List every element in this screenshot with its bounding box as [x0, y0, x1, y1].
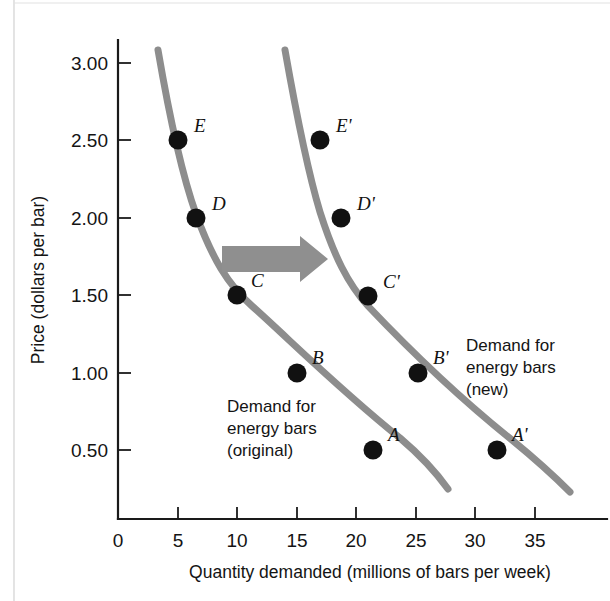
data-point-label-A: A	[386, 424, 400, 445]
x-tick-label-25: 25	[405, 530, 426, 551]
y-tick-label-2.50: 2.50	[71, 130, 108, 151]
data-point-B-prime	[409, 364, 428, 383]
y-tick-label-1.50: 1.50	[71, 285, 108, 306]
x-tick-label-0: 0	[113, 530, 124, 551]
data-point-label-D: D	[211, 193, 226, 214]
annotation-original-line2: energy bars	[227, 419, 317, 438]
y-tick-label-0.50: 0.50	[71, 440, 108, 461]
data-point-label-E-prime: E'	[335, 115, 353, 136]
annotation-new-line3: (new)	[466, 380, 509, 399]
data-point-A-prime	[488, 441, 507, 460]
chart-canvas: 3.00 2.50 2.00 1.50 1.00 0.50 0 5 10 15 …	[0, 0, 610, 601]
y-axis-title: Price (dollars per bar)	[28, 196, 48, 364]
data-point-D	[187, 209, 206, 228]
data-points-new: E' D' C' B' A'	[311, 115, 529, 460]
data-point-D-prime	[332, 209, 351, 228]
y-axis-ticks: 3.00 2.50 2.00 1.50 1.00 0.50	[71, 53, 131, 461]
annotation-demand-original: Demand for energy bars (original)	[227, 397, 317, 460]
annotation-new-line1: Demand for	[466, 336, 555, 355]
annotation-new-line2: energy bars	[466, 358, 556, 377]
shift-arrow-icon	[222, 236, 328, 282]
data-point-label-C: C	[251, 270, 264, 291]
data-point-label-B: B	[312, 347, 324, 368]
annotation-original-line1: Demand for	[227, 397, 316, 416]
data-point-C-prime	[359, 287, 378, 306]
y-tick-label-1.00: 1.00	[71, 363, 108, 384]
annotation-original-line3: (original)	[227, 441, 293, 460]
x-tick-label-10: 10	[226, 530, 247, 551]
annotation-demand-new: Demand for energy bars (new)	[466, 336, 556, 399]
data-point-E	[169, 131, 188, 150]
data-point-label-C-prime: C'	[383, 271, 401, 292]
data-point-label-E: E	[193, 115, 206, 136]
x-axis-ticks: 0 5 10 15 20 25 30 35	[113, 507, 546, 551]
data-point-label-B-prime: B'	[433, 347, 450, 368]
x-tick-label-30: 30	[464, 530, 485, 551]
x-tick-label-15: 15	[286, 530, 307, 551]
data-point-label-A-prime: A'	[510, 424, 529, 445]
y-tick-label-2.00: 2.00	[71, 208, 108, 229]
data-point-label-D-prime: D'	[356, 193, 376, 214]
axes	[118, 40, 607, 519]
data-point-E-prime	[311, 131, 330, 150]
x-tick-label-35: 35	[524, 530, 545, 551]
x-tick-label-20: 20	[345, 530, 366, 551]
x-tick-label-5: 5	[173, 530, 184, 551]
data-point-B	[288, 364, 307, 383]
x-axis-title: Quantity demanded (millions of bars per …	[189, 562, 551, 582]
demand-curve-figure: 3.00 2.50 2.00 1.50 1.00 0.50 0 5 10 15 …	[0, 0, 610, 601]
y-tick-label-3.00: 3.00	[71, 53, 108, 74]
data-point-A	[364, 441, 383, 460]
data-point-C	[228, 286, 247, 305]
